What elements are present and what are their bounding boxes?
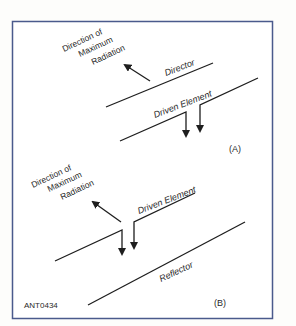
panel-a-label: (A) <box>229 144 241 154</box>
antenna-diagram: Direction of Maximum Radiation Director … <box>0 0 296 326</box>
figure-id-label: ANT0434 <box>24 301 58 310</box>
panel-b-label: (B) <box>214 298 226 308</box>
